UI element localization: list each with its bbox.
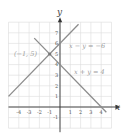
graph-canvas: -4-3-2-11234-11234567 y x (−1, 5) x − y … bbox=[0, 0, 126, 134]
x-tick-label: 4 bbox=[100, 109, 103, 115]
line2-label: x + y = 4 bbox=[74, 68, 105, 76]
y-tick-label: 6 bbox=[55, 40, 58, 46]
x-tick-label: 3 bbox=[89, 109, 92, 115]
y-tick-label: 2 bbox=[55, 83, 58, 89]
x-tick-label: -4 bbox=[16, 109, 21, 115]
y-tick-label: 4 bbox=[55, 61, 58, 67]
x-axis-label: x bbox=[115, 102, 120, 112]
y-tick-label: 7 bbox=[55, 30, 58, 36]
x-tick-label: -3 bbox=[27, 109, 32, 115]
y-axis-arrow-icon bbox=[58, 17, 62, 22]
y-axis-label: y bbox=[56, 7, 63, 17]
x-tick-label: -1 bbox=[47, 109, 52, 115]
y-tick-label: 1 bbox=[55, 93, 58, 99]
y-tick-label: 5 bbox=[55, 51, 58, 57]
intersection-label: (−1, 5) bbox=[14, 50, 37, 58]
x-tick-label: 2 bbox=[79, 109, 82, 115]
intersection-point bbox=[48, 52, 51, 55]
y-tick-label: -1 bbox=[53, 114, 58, 120]
x-tick-label: -2 bbox=[37, 109, 42, 115]
y-tick-label: 3 bbox=[55, 72, 58, 78]
line1-label: x − y = −6 bbox=[69, 42, 105, 50]
x-tick-label: 1 bbox=[69, 109, 72, 115]
